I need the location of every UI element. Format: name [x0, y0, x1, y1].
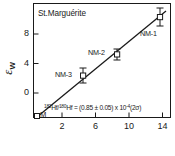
annotation-multiplier: x 10: [115, 104, 126, 111]
x-tick-label-10: 10: [119, 122, 139, 131]
plot-frame: [34, 4, 171, 118]
y-tick-label-4: 4: [15, 59, 29, 68]
chart-title: St.Marguérite: [38, 10, 86, 18]
data-label-nm-1: NM-1: [140, 30, 157, 37]
annotation-value: (0.85 ± 0.05): [79, 104, 113, 111]
y-axis-label: εW: [1, 48, 18, 88]
y-axis-label-symbol: ε: [0, 70, 15, 75]
x-tick-label-6: 6: [86, 122, 106, 131]
data-point-m: [35, 114, 40, 119]
plot-canvas: [0, 0, 175, 156]
x-tick-label-2: 2: [52, 122, 72, 131]
y-tick-label-0: 0: [15, 88, 29, 97]
isochron-annotation: 182Hf/180Hf = (0.85 ± 0.05) x 10-4(2σ): [44, 105, 141, 112]
chart-figure: St.Marguérite εW 8 4 0 2 6 10 14 M NM-3 …: [0, 0, 175, 156]
data-label-nm-2: NM-2: [88, 49, 105, 56]
annotation-nuclide-2: Hf: [66, 104, 72, 111]
data-label-m: M: [40, 111, 46, 119]
annotation-nuclide-1: Hf: [51, 104, 57, 111]
x-tick-label-14: 14: [153, 122, 173, 131]
annotation-sigma: (2σ): [130, 104, 141, 111]
data-label-nm-3: NM-3: [55, 71, 72, 78]
y-tick-label-8: 8: [15, 29, 29, 38]
